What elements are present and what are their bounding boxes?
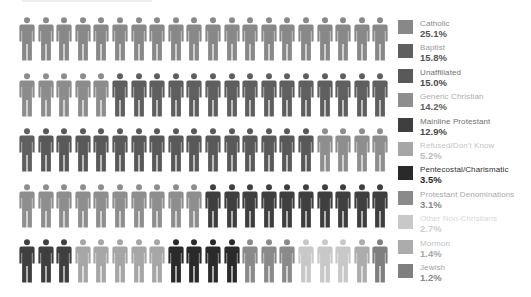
person-icon bbox=[261, 17, 277, 61]
person-icon bbox=[131, 73, 147, 117]
pictogram-grid bbox=[19, 17, 394, 295]
person-icon bbox=[112, 73, 128, 117]
legend-label: Mormon bbox=[420, 239, 450, 248]
legend-value: 3.5% bbox=[420, 174, 442, 185]
legend-value: 5.2% bbox=[420, 150, 442, 161]
legend-swatch bbox=[398, 240, 413, 254]
person-icon bbox=[186, 128, 202, 172]
person-icon bbox=[242, 73, 258, 117]
legend-swatch bbox=[398, 93, 413, 107]
person-icon bbox=[335, 239, 351, 283]
figure-row bbox=[19, 239, 394, 283]
person-icon bbox=[317, 128, 333, 172]
person-icon bbox=[19, 239, 35, 283]
legend-swatch bbox=[398, 44, 413, 58]
legend-item-unaffiliated: Unaffiliated 15.0% bbox=[398, 68, 531, 92]
person-icon bbox=[298, 239, 314, 283]
legend-swatch bbox=[398, 142, 413, 156]
person-icon bbox=[131, 17, 147, 61]
person-icon bbox=[168, 239, 184, 283]
person-icon bbox=[149, 73, 165, 117]
person-icon bbox=[298, 73, 314, 117]
legend-value: 25.1% bbox=[420, 28, 447, 39]
person-icon bbox=[205, 17, 221, 61]
person-icon bbox=[131, 184, 147, 228]
person-icon bbox=[224, 73, 240, 117]
person-icon bbox=[93, 184, 109, 228]
person-icon bbox=[56, 239, 72, 283]
legend-item-mormon: Mormon 1.4% bbox=[398, 239, 531, 263]
legend-label: Mainline Protestant bbox=[420, 117, 490, 126]
person-icon bbox=[279, 17, 295, 61]
person-icon bbox=[38, 239, 54, 283]
person-icon bbox=[317, 17, 333, 61]
legend-item-refused: Refused/Don't Know 5.2% bbox=[398, 141, 531, 165]
person-icon bbox=[38, 17, 54, 61]
person-icon bbox=[75, 239, 91, 283]
person-icon bbox=[75, 17, 91, 61]
person-icon bbox=[112, 17, 128, 61]
legend-swatch bbox=[398, 264, 413, 278]
person-icon bbox=[242, 239, 258, 283]
person-icon bbox=[298, 17, 314, 61]
person-icon bbox=[93, 17, 109, 61]
person-icon bbox=[224, 128, 240, 172]
person-icon bbox=[112, 184, 128, 228]
person-icon bbox=[19, 184, 35, 228]
legend-value: 3.1% bbox=[420, 199, 442, 210]
legend-label: Refused/Don't Know bbox=[420, 141, 494, 150]
person-icon bbox=[75, 184, 91, 228]
person-icon bbox=[372, 73, 388, 117]
legend-item-baptist: Baptist 15.8% bbox=[398, 43, 531, 67]
person-icon bbox=[205, 73, 221, 117]
person-icon bbox=[131, 128, 147, 172]
person-icon bbox=[205, 128, 221, 172]
legend-swatch bbox=[398, 118, 413, 132]
person-icon bbox=[298, 128, 314, 172]
person-icon bbox=[149, 184, 165, 228]
person-icon bbox=[354, 128, 370, 172]
person-icon bbox=[224, 239, 240, 283]
legend-item-jewish: Jewish 1.2% bbox=[398, 263, 531, 287]
legend-value: 1.4% bbox=[420, 248, 442, 259]
person-icon bbox=[93, 73, 109, 117]
legend-label: Unaffiliated bbox=[420, 68, 461, 77]
legend-swatch bbox=[398, 20, 413, 34]
legend-item-generic-christian: Generic Christian 14.2% bbox=[398, 92, 531, 116]
person-icon bbox=[354, 184, 370, 228]
person-icon bbox=[149, 239, 165, 283]
legend-item-pentecostal: Pentecostal/Charismatic 3.5% bbox=[398, 165, 531, 189]
person-icon bbox=[19, 17, 35, 61]
legend: Catholic 25.1% Baptist 15.8% Unaffiliate… bbox=[398, 19, 531, 287]
person-icon bbox=[335, 17, 351, 61]
person-icon bbox=[56, 184, 72, 228]
person-icon bbox=[372, 128, 388, 172]
legend-value: 12.9% bbox=[420, 126, 447, 137]
person-icon bbox=[298, 184, 314, 228]
person-icon bbox=[261, 128, 277, 172]
person-icon bbox=[131, 239, 147, 283]
person-icon bbox=[56, 17, 72, 61]
person-icon bbox=[242, 128, 258, 172]
figure-row bbox=[19, 184, 394, 228]
person-icon bbox=[168, 184, 184, 228]
person-icon bbox=[242, 17, 258, 61]
person-icon bbox=[279, 73, 295, 117]
person-icon bbox=[354, 17, 370, 61]
figure-row bbox=[19, 17, 394, 61]
legend-item-catholic: Catholic 25.1% bbox=[398, 19, 531, 43]
person-icon bbox=[112, 239, 128, 283]
person-icon bbox=[261, 184, 277, 228]
person-icon bbox=[38, 73, 54, 117]
legend-label: Pentecostal/Charismatic bbox=[420, 165, 509, 174]
person-icon bbox=[19, 128, 35, 172]
person-icon bbox=[75, 128, 91, 172]
person-icon bbox=[149, 17, 165, 61]
person-icon bbox=[317, 239, 333, 283]
person-icon bbox=[149, 128, 165, 172]
person-icon bbox=[168, 17, 184, 61]
person-icon bbox=[261, 239, 277, 283]
legend-label: Generic Christian bbox=[420, 92, 484, 101]
person-icon bbox=[372, 239, 388, 283]
legend-value: 14.2% bbox=[420, 101, 447, 112]
